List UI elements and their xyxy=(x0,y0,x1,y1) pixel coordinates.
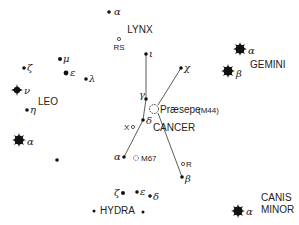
canis-minor-label-line1: CANIS xyxy=(261,192,292,203)
hydra-epsilon-star xyxy=(135,190,139,194)
leo-epsilon-star xyxy=(64,71,69,76)
leo-nu-label: ν xyxy=(24,85,30,96)
gemini-alpha-star xyxy=(233,42,247,56)
leo-alpha-label: α xyxy=(27,136,34,147)
leo-zeta-star xyxy=(22,66,26,70)
praesepe-id-label: (M44) xyxy=(198,106,219,115)
cancer-iota-label: ι xyxy=(149,48,153,59)
x-variable-marker xyxy=(131,125,134,128)
m67-label: M67 xyxy=(141,154,157,163)
leo-zeta-label: ζ xyxy=(27,62,33,73)
praesepe-label: Præsepe xyxy=(160,104,201,115)
canis-minor-alpha-star xyxy=(231,204,245,218)
cancer-iota-star xyxy=(144,52,148,56)
gemini-alpha-label: α xyxy=(248,45,255,56)
lynx-label: LYNX xyxy=(127,24,153,35)
lynx-alpha-label: α xyxy=(114,6,121,17)
gemini-beta-star xyxy=(221,64,235,78)
leo-epsilon-label: ε xyxy=(70,67,75,78)
leo-mu-label: μ xyxy=(63,53,70,64)
leo-eta-label: η xyxy=(30,104,36,115)
cancer-label: CANCER xyxy=(153,122,195,133)
r-variable-marker xyxy=(181,162,184,165)
cancer-alpha-label: α xyxy=(114,151,121,162)
hydra-star-west xyxy=(93,210,96,213)
leo-eta-star xyxy=(25,108,29,112)
hydra-star-east xyxy=(142,211,145,214)
canis-minor-alpha-label: α xyxy=(246,206,253,217)
cancer-beta-star xyxy=(180,175,184,179)
leo-lambda-label: λ xyxy=(88,73,95,84)
cancer-chi-label: χ xyxy=(183,62,191,73)
hydra-zeta-star xyxy=(121,191,125,195)
cancer-delta-star xyxy=(141,118,145,122)
cancer-delta-label: δ xyxy=(146,115,152,126)
hydra-epsilon-label: ε xyxy=(140,186,145,197)
x-variable-label: X xyxy=(124,123,130,132)
rs-label: RS xyxy=(113,43,124,52)
canis-minor-label-line2: MINOR xyxy=(261,204,294,215)
gemini-beta-label: β xyxy=(235,68,242,79)
rs-variable-marker xyxy=(117,37,120,40)
lynx-alpha-star xyxy=(107,10,111,14)
cancer-alpha-star xyxy=(122,155,126,159)
leo-lambda-star xyxy=(84,77,88,81)
star-chart: α LYNX RS ι χ γ Præsepe (M44) δ X CANCER… xyxy=(0,0,299,225)
hydra-delta-star xyxy=(148,194,152,198)
cancer-beta-label: β xyxy=(184,173,191,184)
unlabeled-star xyxy=(55,158,59,162)
hydra-zeta-label: ζ xyxy=(114,187,120,198)
hydra-label: HYDRA xyxy=(100,205,135,216)
leo-alpha-star xyxy=(12,133,26,147)
m67-cluster-marker xyxy=(134,156,139,161)
leo-mu-star xyxy=(58,57,62,61)
cancer-chi-star xyxy=(179,66,183,70)
leo-nu-star xyxy=(11,84,23,96)
praesepe-cluster-marker xyxy=(150,105,159,114)
leo-label: LEO xyxy=(38,96,58,107)
cancer-gamma-label: γ xyxy=(139,89,145,100)
r-variable-label: R xyxy=(186,160,192,169)
hydra-delta-label: δ xyxy=(153,191,159,202)
gemini-label: GEMINI xyxy=(250,59,286,70)
